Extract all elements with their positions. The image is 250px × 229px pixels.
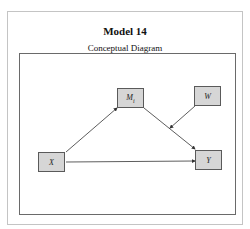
edge-x-to-m	[66, 108, 117, 152]
edge-w-to-path	[170, 106, 195, 128]
node-y: Y	[195, 150, 222, 170]
edge-m-to-y	[144, 108, 195, 149]
node-w: W	[194, 86, 221, 106]
node-m-label: Mi	[126, 93, 134, 104]
node-x: X	[38, 152, 65, 172]
node-w-label: W	[204, 92, 211, 101]
edge-x-to-y	[66, 161, 195, 162]
diagram-edges	[0, 0, 250, 229]
node-m: Mi	[117, 88, 144, 108]
node-x-label: X	[49, 158, 54, 167]
node-y-label: Y	[206, 156, 210, 165]
